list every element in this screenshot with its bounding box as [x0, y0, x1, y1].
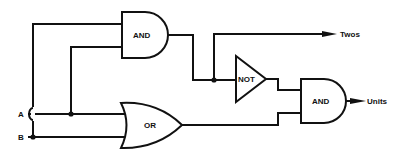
twos-arrow-icon — [322, 31, 337, 37]
output-label-units: Units — [367, 97, 388, 106]
units-arrow-icon — [350, 98, 366, 104]
or-gate: OR — [121, 103, 182, 148]
circuit-svg: AND Twos NOT OR AND Units A B — [0, 0, 401, 158]
and-gate-right-label: AND — [312, 97, 330, 106]
junction-dot-b — [30, 134, 35, 139]
wire-input-b — [28, 24, 125, 137]
wire-or-output — [182, 113, 301, 125]
wire-not-output — [266, 79, 301, 90]
wire-input-a — [28, 47, 125, 120]
junction-dot-a — [68, 111, 73, 116]
input-label-b: B — [18, 133, 24, 142]
not-gate-label: NOT — [238, 75, 255, 84]
and-gate-right: AND — [301, 79, 346, 123]
or-gate-label: OR — [144, 121, 156, 130]
not-gate: NOT — [236, 56, 266, 102]
output-label-twos: Twos — [340, 30, 360, 39]
input-label-a: A — [18, 110, 24, 119]
junction-dot-and1 — [211, 77, 216, 82]
and-gate-top: AND — [122, 12, 168, 58]
half-adder-circuit-diagram: AND Twos NOT OR AND Units A B — [0, 0, 401, 158]
and-gate-top-label: AND — [133, 31, 151, 40]
